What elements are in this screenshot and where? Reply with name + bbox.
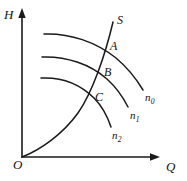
label-point-b: B [104, 66, 111, 78]
label-curve-n1-sub: 1 [136, 115, 140, 124]
label-curve-n1: n1 [130, 110, 139, 121]
label-curve-n1-base: n [130, 109, 136, 121]
label-curve-n0: n0 [145, 92, 154, 103]
label-curve-n2-base: n [112, 129, 118, 141]
y-axis-arrowhead [18, 8, 25, 18]
origin-label: O [13, 158, 22, 171]
label-point-s: S [117, 14, 123, 26]
label-point-c: C [95, 91, 103, 103]
figure-canvas [0, 0, 187, 181]
x-axis-label: Q [166, 160, 175, 173]
label-curve-n2: n2 [112, 130, 121, 141]
x-axis-arrowhead [150, 153, 160, 160]
y-axis-label: H [4, 8, 13, 21]
label-point-a: A [110, 40, 117, 52]
pump-characteristic-figure: H Q O S A B C n0 n1 n2 [0, 0, 187, 181]
label-curve-n0-sub: 0 [151, 97, 155, 106]
label-curve-n0-base: n [145, 91, 151, 103]
label-curve-n2-sub: 2 [118, 135, 122, 144]
curve-n1 [42, 57, 128, 107]
